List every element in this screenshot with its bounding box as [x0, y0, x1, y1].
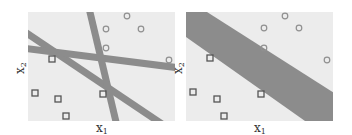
- right-panel: x1 x2: [171, 12, 345, 135]
- right-x-axis-label: x1: [254, 121, 266, 135]
- left-x-axis-label: x1: [96, 121, 108, 135]
- figure: x1 x2 x1 x2: [0, 0, 352, 135]
- left-y-axis-label: x2: [13, 62, 28, 74]
- left-panel: x1 x2: [13, 8, 180, 135]
